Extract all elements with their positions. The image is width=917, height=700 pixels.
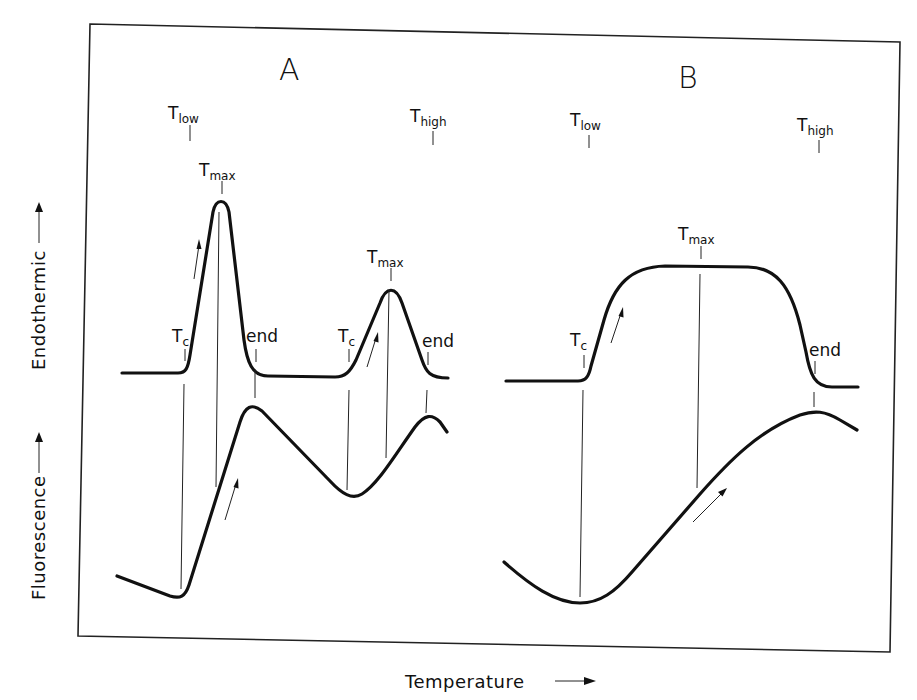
arrow-up-icon bbox=[35, 432, 43, 442]
panel-a-t-low-label: Tlow bbox=[167, 103, 199, 141]
panel-b-connector-lines bbox=[580, 274, 814, 597]
svg-text:Fluorescence: Fluorescence bbox=[28, 475, 49, 600]
arrowhead-icon bbox=[374, 332, 379, 343]
figure-frame bbox=[78, 24, 900, 652]
y-axis-lower-label: Fluorescence bbox=[28, 432, 49, 600]
panel-b-letter: B bbox=[678, 60, 698, 95]
svg-text:end: end bbox=[422, 331, 454, 351]
svg-text:end: end bbox=[809, 340, 841, 360]
arrowhead-icon bbox=[197, 239, 202, 249]
panel-a-peak2-end-label: end bbox=[422, 331, 454, 365]
svg-text:end: end bbox=[246, 326, 278, 346]
panel-a-t-high-label: Thigh bbox=[409, 106, 447, 145]
panel-b-endothermic-curve bbox=[506, 266, 858, 387]
panel-b-t-high-label: Thigh bbox=[796, 115, 834, 153]
panel-a-fluorescence-curve bbox=[117, 407, 447, 598]
svg-text:Thigh: Thigh bbox=[796, 115, 834, 138]
svg-text:Tlow: Tlow bbox=[167, 103, 199, 126]
svg-text:Temperature: Temperature bbox=[404, 671, 525, 692]
panel-b-end-label: end bbox=[809, 340, 841, 374]
panel-a-peak1-end-label: end bbox=[246, 326, 278, 362]
svg-text:Tmax: Tmax bbox=[677, 224, 715, 247]
panel-a-endothermic-curve bbox=[122, 202, 448, 379]
panel-a-peak2-t-c-label: Tc bbox=[337, 326, 355, 362]
panel-a-peak1-t-c-label: Tc bbox=[171, 326, 189, 361]
x-axis-label: Temperature bbox=[404, 671, 596, 692]
panel-b-fluorescence-curve bbox=[504, 412, 857, 603]
svg-text:Thigh: Thigh bbox=[409, 106, 447, 129]
panel-a-peak2-t-max-label: Tmax bbox=[366, 247, 404, 281]
panel-b-t-c-label: Tc bbox=[569, 330, 587, 368]
svg-text:Tlow: Tlow bbox=[569, 110, 601, 133]
y-axis-upper-label: Endothermic bbox=[28, 202, 49, 370]
svg-text:Tmax: Tmax bbox=[366, 247, 404, 270]
svg-text:Tc: Tc bbox=[337, 326, 355, 349]
figure-canvas: A Tlow Thigh Tmax Tc end Tmax bbox=[0, 0, 917, 700]
arrow-up-icon bbox=[35, 202, 43, 212]
panel-a-letter: A bbox=[279, 52, 300, 87]
svg-text:Endothermic: Endothermic bbox=[28, 250, 49, 370]
panel-b-t-low-label: Tlow bbox=[569, 110, 601, 148]
panel-b: B Tlow Thigh Tmax Tc end bbox=[504, 60, 858, 603]
panel-a: A Tlow Thigh Tmax Tc end Tmax bbox=[117, 52, 454, 597]
arrow-right-icon bbox=[584, 677, 596, 685]
svg-text:Tc: Tc bbox=[171, 326, 189, 349]
panel-b-t-max-label: Tmax bbox=[677, 224, 715, 259]
svg-text:Tc: Tc bbox=[569, 330, 587, 353]
svg-text:Tmax: Tmax bbox=[198, 160, 236, 183]
arrowhead-icon bbox=[619, 307, 624, 318]
panel-b-direction-arrows bbox=[611, 307, 727, 522]
arrowhead-icon bbox=[234, 478, 239, 489]
panel-a-peak1-t-max-label: Tmax bbox=[198, 160, 236, 194]
